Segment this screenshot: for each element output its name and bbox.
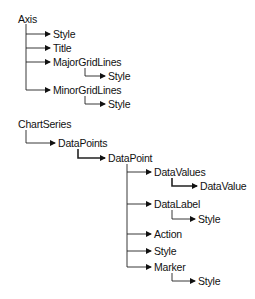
node-chart-series: ChartSeries (18, 118, 71, 130)
node-data-value: DataValue (200, 180, 246, 192)
node-marker: Marker (154, 261, 185, 273)
node-data-points: DataPoints (58, 137, 107, 149)
node-axis: Axis (18, 13, 37, 25)
node-axis-title: Title (53, 42, 71, 54)
node-axis-style: Style (53, 28, 75, 40)
node-major-grid-style: Style (108, 70, 130, 82)
node-action: Action (154, 228, 182, 240)
node-data-point-style: Style (154, 245, 176, 257)
node-data-values: DataValues (154, 166, 206, 178)
node-data-label-style: Style (198, 213, 220, 225)
node-marker-style: Style (198, 275, 220, 287)
node-data-point: DataPoint (108, 152, 152, 164)
node-data-label: DataLabel (154, 198, 200, 210)
node-major-grid-lines: MajorGridLines (53, 56, 121, 68)
tree-connectors (0, 0, 255, 299)
node-minor-grid-style: Style (108, 98, 130, 110)
node-minor-grid-lines: MinorGridLines (53, 84, 121, 96)
